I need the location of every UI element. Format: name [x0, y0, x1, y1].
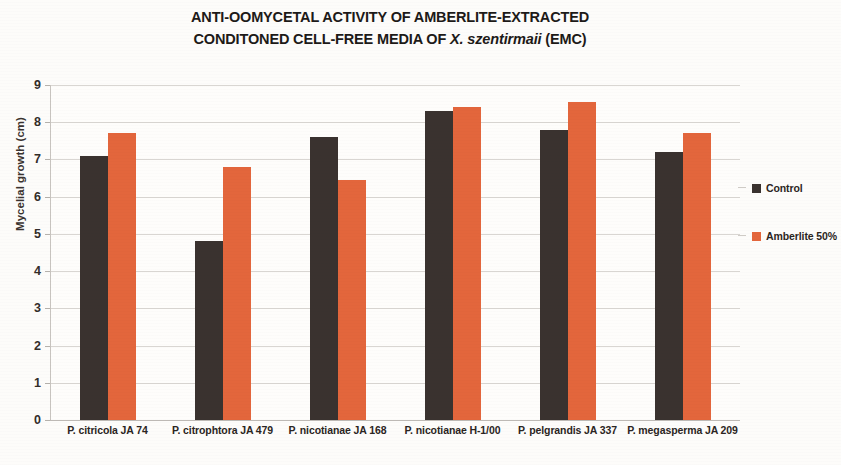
legend-swatch-amberlite	[752, 232, 761, 241]
y-axis-tick-label: 6	[34, 190, 41, 204]
gridline	[50, 234, 740, 235]
legend-tick-mark	[738, 187, 746, 188]
y-axis-tick-mark	[45, 159, 50, 160]
bar-control	[540, 130, 568, 420]
y-axis-title: Mycelial growth (cm)	[14, 84, 26, 264]
chart-title-line-2-prefix: CONDITONED CELL-FREE MEDIA OF	[194, 31, 451, 47]
x-axis-category-label: P. pelgrandis JA 337	[510, 423, 625, 437]
y-axis-tick-mark	[45, 234, 50, 235]
y-axis-tick-label: 9	[34, 78, 41, 92]
chart-title-line-2: CONDITONED CELL-FREE MEDIA OF X. szentir…	[60, 28, 720, 50]
gridline	[50, 85, 740, 86]
y-axis-tick-label: 8	[34, 115, 41, 129]
bar-amberlite	[683, 133, 711, 420]
legend-item[interactable]: Amberlite 50%	[752, 230, 841, 242]
y-axis-tick-mark	[45, 271, 50, 272]
gridline	[50, 197, 740, 198]
chart-figure: ANTI-OOMYCETAL ACTIVITY OF AMBERLITE-EXT…	[0, 0, 841, 465]
bar-control	[310, 137, 338, 420]
bar-control	[80, 156, 108, 420]
gridline	[50, 308, 740, 309]
bar-amberlite	[568, 102, 596, 420]
bar-amberlite	[453, 107, 481, 420]
y-axis-line	[50, 85, 51, 420]
y-axis-tick-label: 1	[34, 376, 41, 390]
gridline	[50, 383, 740, 384]
y-axis-tick-label: 5	[34, 227, 41, 241]
legend-item[interactable]: Control	[752, 182, 841, 194]
y-axis-tick-mark	[45, 122, 50, 123]
bar-control	[425, 111, 453, 420]
y-axis-tick-mark	[45, 420, 50, 421]
y-axis-tick-label: 4	[34, 264, 41, 278]
bar-amberlite	[108, 133, 136, 420]
x-axis-category-label: P. nicotianae H-1/00	[395, 423, 510, 437]
legend-label: Amberlite 50%	[766, 230, 837, 242]
gridline	[50, 271, 740, 272]
bar-amberlite	[338, 180, 366, 420]
y-axis-tick-mark	[45, 346, 50, 347]
gridline	[50, 346, 740, 347]
chart-title-line-1: ANTI-OOMYCETAL ACTIVITY OF AMBERLITE-EXT…	[60, 6, 720, 28]
x-axis-category-label: P. citrophtora JA 479	[165, 423, 280, 437]
legend-tick-mark	[738, 235, 746, 236]
chart-title-line-2-suffix: (EMC)	[541, 31, 586, 47]
y-axis-tick-label: 2	[34, 339, 41, 353]
y-axis-tick-label: 0	[34, 413, 41, 427]
x-axis-category-label: P. citricola JA 74	[50, 423, 165, 437]
chart-title: ANTI-OOMYCETAL ACTIVITY OF AMBERLITE-EXT…	[60, 6, 720, 51]
gridline	[50, 420, 740, 421]
y-axis-tick-mark	[45, 308, 50, 309]
legend-label: Control	[766, 182, 803, 194]
y-axis-tick-mark	[45, 383, 50, 384]
x-axis-category-label: P. nicotianae JA 168	[280, 423, 395, 437]
bar-control	[655, 152, 683, 420]
gridline	[50, 159, 740, 160]
plot-area: 9876543210 P. citricola JA 74P. citropht…	[50, 85, 740, 420]
y-axis-tick-label: 7	[34, 152, 41, 166]
chart-title-species-name: X. szentirmaii	[450, 31, 541, 47]
bar-control	[195, 241, 223, 420]
y-axis-tick-mark	[45, 197, 50, 198]
x-axis-category-label: P. megasperma JA 209	[625, 423, 740, 437]
gridline	[50, 122, 740, 123]
plot-background	[50, 85, 740, 420]
y-axis-tick-mark	[45, 85, 50, 86]
legend-swatch-control	[752, 184, 761, 193]
chart-legend: ControlAmberlite 50%	[752, 182, 841, 278]
y-axis-tick-label: 3	[34, 301, 41, 315]
bar-amberlite	[223, 167, 251, 420]
